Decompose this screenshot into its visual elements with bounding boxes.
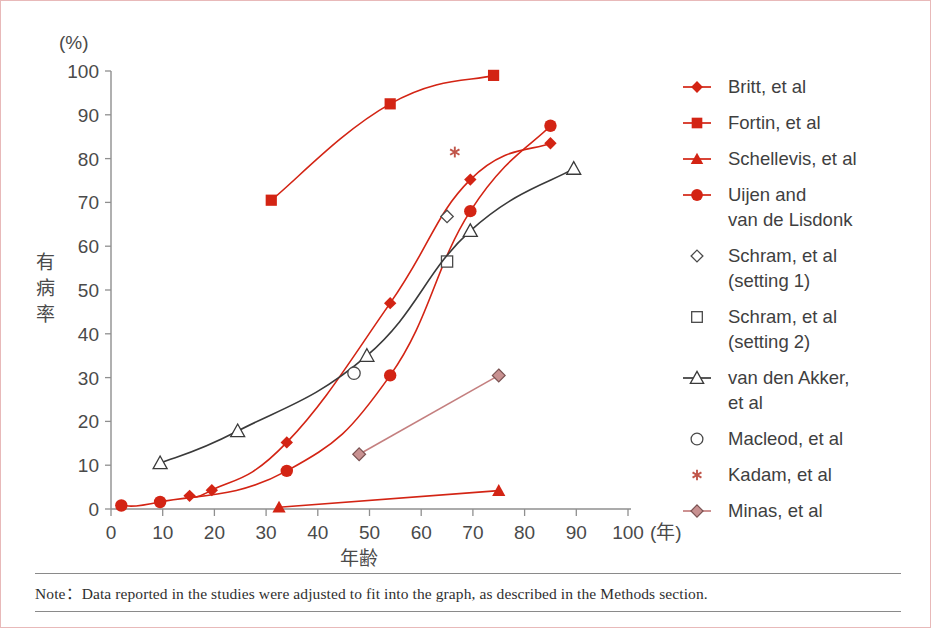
y-tick-label: 20 [78, 411, 99, 432]
marker-square-filled-icon [385, 98, 396, 109]
marker-diamond-filled-icon [691, 81, 703, 93]
legend-label: van de Lisdonk [728, 209, 853, 230]
x-tick-label: 90 [566, 522, 587, 543]
axis-layer: 0102030405060708090100010203040506070809… [67, 61, 644, 543]
series-line [359, 375, 499, 454]
note-divider-bottom [35, 611, 901, 612]
chart-legend: Britt, et alFortin, et alSchellevis, et … [683, 76, 857, 521]
marker-circle-filled-icon [544, 120, 556, 132]
legend-item-uijen-and-van-de-lisdonk[interactable]: Uijen andvan de Lisdonk [683, 184, 853, 230]
legend-label: (setting 2) [728, 331, 810, 352]
series-van-den-akker-et-al [153, 162, 581, 469]
series-line [271, 75, 493, 200]
y-tick-label: 10 [78, 455, 99, 476]
y-axis-title-char: 率 [36, 304, 55, 325]
legend-label: Macleod, et al [728, 428, 843, 449]
marker-diamond-filled-icon [544, 137, 556, 149]
legend-label: Schellevis, et al [728, 148, 857, 169]
data-series-layer [115, 70, 581, 513]
legend-item-kadam-et-al[interactable]: Kadam, et al [693, 464, 832, 485]
y-axis-unit: (%) [59, 32, 89, 53]
marker-triangle-open-icon [153, 456, 167, 469]
legend-item-fortin-et-al[interactable]: Fortin, et al [683, 112, 821, 133]
legend-item-van-den-akker-et-al[interactable]: van den Akker,et al [683, 367, 849, 413]
legend-label: Britt, et al [728, 76, 806, 97]
legend-label: et al [728, 392, 763, 413]
note-text: Note：Data reported in the studies were a… [35, 574, 901, 603]
series-kadam-et-al [450, 147, 459, 158]
x-axis-unit: (年) [650, 522, 682, 543]
marker-diamond-shaded-icon [691, 505, 703, 517]
y-axis-title-char: 病 [36, 278, 55, 299]
marker-triangle-filled-icon [492, 484, 505, 496]
series-macleod-et-al [348, 367, 360, 379]
x-tick-label: 40 [307, 522, 328, 543]
marker-circle-filled-icon [691, 189, 703, 201]
marker-circle-filled-icon [154, 496, 166, 508]
marker-diamond-open-icon [691, 250, 703, 262]
legend-item-britt-et-al[interactable]: Britt, et al [683, 76, 806, 97]
y-tick-label: 0 [88, 499, 99, 520]
legend-item-schram-et-al-setting-1[interactable]: Schram, et al(setting 1) [691, 245, 837, 291]
x-tick-label: 100 [612, 522, 644, 543]
axis-label-layer: (%)(年)年齢有病率 [36, 32, 682, 569]
x-tick-label: 20 [204, 522, 225, 543]
marker-circle-filled-icon [281, 465, 293, 477]
y-tick-label: 90 [78, 105, 99, 126]
series-uijen-and-van-de-lisdonk [115, 120, 557, 512]
series-line [190, 143, 551, 497]
marker-square-filled-icon [266, 195, 277, 206]
legend-item-macleod-et-al[interactable]: Macleod, et al [691, 428, 843, 449]
x-tick-label: 80 [514, 522, 535, 543]
x-tick-label: 70 [462, 522, 483, 543]
y-tick-label: 30 [78, 368, 99, 389]
marker-asterisk-icon [450, 147, 459, 158]
marker-diamond-open-icon [441, 210, 453, 222]
marker-diamond-shaded-icon [492, 369, 505, 382]
y-tick-label: 40 [78, 324, 99, 345]
chart-plot-area: 0102030405060708090100010203040506070809… [1, 1, 931, 571]
x-tick-label: 60 [411, 522, 432, 543]
marker-circle-open-icon [348, 367, 360, 379]
marker-circle-filled-icon [464, 205, 476, 217]
marker-asterisk-icon [693, 470, 702, 480]
marker-square-filled-icon [692, 118, 703, 129]
marker-diamond-filled-icon [384, 297, 396, 309]
y-tick-label: 80 [78, 149, 99, 170]
x-tick-label: 0 [106, 522, 117, 543]
legend-label: Schram, et al [728, 306, 837, 327]
series-line [121, 126, 550, 507]
legend-label: Minas, et al [728, 500, 823, 521]
prevalence-multimorbidity-chart: 0102030405060708090100010203040506070809… [1, 1, 931, 571]
y-axis-title-char: 有 [36, 252, 55, 273]
series-line [279, 491, 499, 508]
marker-square-filled-icon [488, 70, 499, 81]
figure-container: 0102030405060708090100010203040506070809… [0, 0, 931, 628]
x-tick-label: 50 [359, 522, 380, 543]
marker-diamond-shaded-icon [353, 448, 366, 461]
legend-item-schellevis-et-al[interactable]: Schellevis, et al [683, 148, 857, 169]
marker-circle-filled-icon [384, 369, 396, 381]
x-tick-label: 30 [256, 522, 277, 543]
series-line [160, 169, 574, 463]
y-tick-label: 100 [67, 61, 99, 82]
x-tick-label: 10 [152, 522, 173, 543]
legend-item-schram-et-al-setting-2[interactable]: Schram, et al(setting 2) [692, 306, 837, 352]
legend-label: van den Akker, [728, 367, 849, 388]
marker-circle-filled-icon [115, 499, 127, 511]
y-tick-label: 50 [78, 280, 99, 301]
marker-circle-open-icon [691, 433, 703, 445]
legend-label: Kadam, et al [728, 464, 832, 485]
x-axis-title: 年齢 [340, 548, 378, 569]
series-minas-et-al [353, 369, 505, 461]
note-section: Note：Data reported in the studies were a… [35, 573, 901, 612]
marker-diamond-filled-icon [183, 490, 195, 502]
marker-square-open-icon [692, 312, 703, 323]
legend-item-minas-et-al[interactable]: Minas, et al [683, 500, 823, 521]
series-schram-et-al-setting-1 [441, 210, 453, 222]
marker-triangle-open-icon [231, 424, 245, 437]
marker-triangle-open-icon [567, 162, 581, 175]
y-tick-label: 70 [78, 192, 99, 213]
legend-label: Uijen and [728, 184, 806, 205]
series-schellevis-et-al [272, 484, 505, 513]
